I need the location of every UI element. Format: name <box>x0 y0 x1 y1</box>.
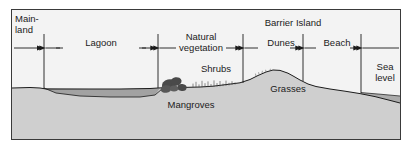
diagram-canvas <box>0 0 415 152</box>
zone-label-lagoon: Lagoon <box>62 38 140 49</box>
group-label-barrier-island: Barrier Island <box>245 18 341 29</box>
zone-label-beach: Beach <box>315 38 359 49</box>
zone-label-mainland: Main-land <box>15 14 47 35</box>
zone-label-sea-level: Sealevel <box>368 62 402 83</box>
feature-label-grasses: Grasses <box>262 84 314 95</box>
zone-label-dunes: Dunes <box>258 38 304 49</box>
feature-label-mangroves: Mangroves <box>160 100 222 111</box>
coastal-cross-section-figure: Main-land Lagoon Naturalvegetation Barri… <box>0 0 415 152</box>
feature-label-shrubs: Shrubs <box>192 64 240 75</box>
zone-label-natural-vegetation: Naturalvegetation <box>166 32 236 53</box>
